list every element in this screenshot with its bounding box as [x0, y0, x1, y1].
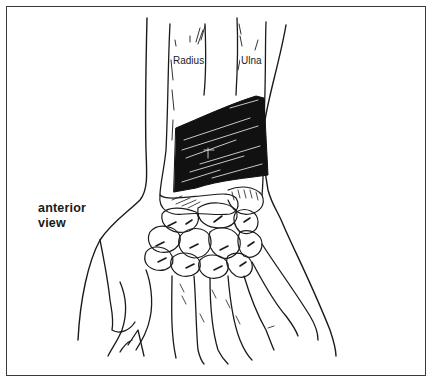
ulna-shaft-left [236, 18, 238, 95]
pronator-quadratus-muscle [174, 96, 268, 192]
ulna-distal-end [228, 187, 263, 214]
radius-shaft-left [160, 24, 170, 195]
thumb-outline [100, 240, 135, 332]
view-label: anterior view [38, 201, 86, 231]
view-label-line1: anterior [38, 201, 86, 216]
forearm-outline-left [78, 18, 147, 340]
metacarpals [108, 244, 318, 364]
ulna-label: Ulna [240, 56, 263, 66]
wrist-anatomy-illustration [0, 0, 438, 379]
thumb-tip [120, 330, 144, 356]
forearm-outline-right [264, 25, 336, 356]
metacarpal-hatching [180, 284, 274, 328]
distal-hatching [172, 190, 258, 208]
view-label-line2: view [38, 216, 86, 231]
radius-label: Radius [172, 56, 205, 66]
